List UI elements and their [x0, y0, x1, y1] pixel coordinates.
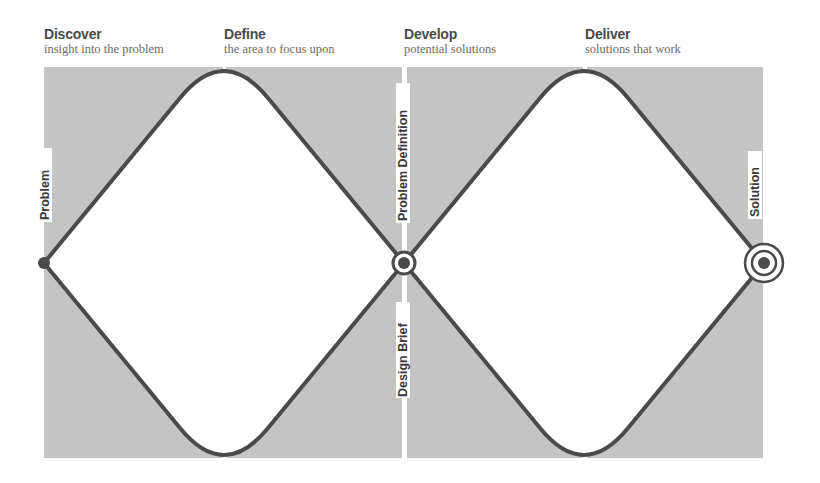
svg-text:Problem Definition: Problem Definition [396, 110, 410, 221]
svg-text:Problem: Problem [38, 170, 52, 220]
double-diamond-diagram: Problem Problem Definition Design Brief … [0, 0, 820, 483]
label-design-brief: Design Brief [396, 302, 410, 398]
label-problem: Problem [38, 148, 52, 222]
start-dot-icon [38, 257, 50, 269]
midpoint-circle-icon [393, 252, 415, 274]
label-problem-definition: Problem Definition [396, 83, 410, 223]
solution-target-icon [745, 244, 783, 282]
svg-text:Design Brief: Design Brief [396, 323, 410, 397]
label-solution: Solution [748, 151, 762, 219]
svg-text:Solution: Solution [748, 167, 762, 217]
